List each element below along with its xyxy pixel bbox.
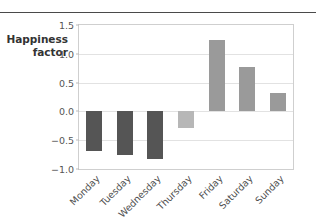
x-axis-tick-label: Sunday [253,173,286,206]
y-axis-tick-mark [76,82,79,83]
y-axis-tick-mark [76,111,79,112]
y-axis-label-line-1: Happiness [2,33,68,46]
gridline [79,54,293,55]
gridline [79,140,293,141]
gridline [79,83,293,84]
bar-friday [209,40,225,111]
y-axis-tick-mark [76,25,79,26]
y-axis-tick-label: 0.5 [59,77,74,88]
x-axis-tick-label: Friday [196,173,224,201]
bar-sunday [270,93,286,111]
y-axis-tick-label: 1.0 [59,48,74,59]
plot-area: 1.51.00.50.0−0.5−1.0 MondayTuesdayWednes… [78,24,294,170]
y-axis-tick-mark [76,169,79,170]
y-axis-tick-label: 1.5 [59,20,74,31]
bar-thursday [178,111,194,127]
bar-wednesday [147,111,163,159]
bar-tuesday [117,111,133,154]
y-axis-tick-label: −1.0 [51,164,74,175]
y-axis-tick-mark [76,140,79,141]
happiness-factor-bar-chart: Happiness factor 1.51.00.50.0−0.5−1.0 Mo… [0,0,316,219]
x-axis-tick-label: Monday [68,173,102,207]
y-axis-tick-mark [76,53,79,54]
y-axis-tick-label: 0.0 [59,106,74,117]
y-axis-tick-label: −0.5 [51,135,74,146]
bar-saturday [239,67,255,111]
bar-monday [86,111,102,150]
